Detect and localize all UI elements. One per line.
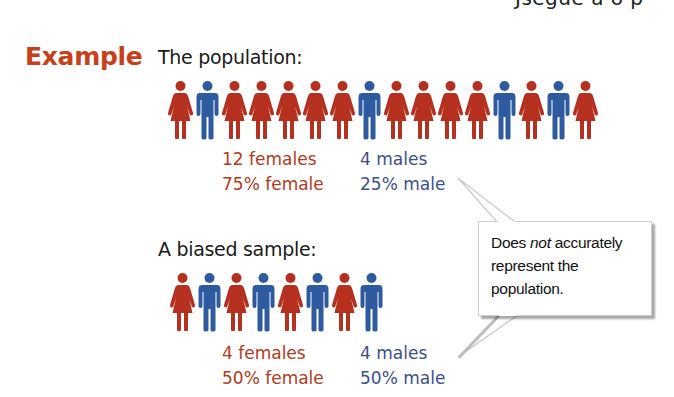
callout-emphasis: not	[530, 234, 551, 251]
female-figure-icon	[275, 80, 302, 140]
female-figure-icon	[167, 80, 194, 140]
male-figure-icon	[545, 80, 572, 140]
population-figures	[167, 80, 599, 140]
callout-line-1: Does not accurately	[491, 231, 651, 254]
female-figure-icon	[329, 80, 356, 140]
population-male-count: 4 males	[360, 147, 427, 172]
female-figure-icon	[169, 272, 196, 332]
sample-heading: A biased sample:	[158, 238, 316, 260]
female-figure-icon	[410, 80, 437, 140]
example-label: Example	[25, 42, 142, 71]
male-figure-icon	[250, 272, 277, 332]
female-figure-icon	[518, 80, 545, 140]
cut-off-header-text: Jsegue a o p	[515, 0, 644, 10]
female-figure-icon	[572, 80, 599, 140]
sample-male-count: 4 males	[360, 341, 427, 366]
female-figure-icon	[221, 80, 248, 140]
sample-female-count: 4 females	[222, 341, 306, 366]
female-figure-icon	[248, 80, 275, 140]
callout-line-3: population.	[491, 277, 651, 300]
female-figure-icon	[383, 80, 410, 140]
population-female-count: 12 females	[222, 147, 317, 172]
population-male-percent: 25% male	[360, 172, 445, 197]
population-female-percent: 75% female	[222, 172, 324, 197]
female-figure-icon	[464, 80, 491, 140]
sample-figures	[169, 272, 385, 332]
female-figure-icon	[331, 272, 358, 332]
callout-line-2: represent the	[491, 254, 651, 277]
male-figure-icon	[196, 272, 223, 332]
callout-box: Does not accurately represent the popula…	[478, 221, 652, 316]
female-figure-icon	[302, 80, 329, 140]
male-figure-icon	[491, 80, 518, 140]
female-figure-icon	[437, 80, 464, 140]
male-figure-icon	[304, 272, 331, 332]
sample-female-percent: 50% female	[222, 366, 324, 391]
female-figure-icon	[223, 272, 250, 332]
female-figure-icon	[277, 272, 304, 332]
sample-male-percent: 50% male	[360, 366, 445, 391]
male-figure-icon	[194, 80, 221, 140]
male-figure-icon	[358, 272, 385, 332]
male-figure-icon	[356, 80, 383, 140]
population-heading: The population:	[158, 46, 302, 68]
